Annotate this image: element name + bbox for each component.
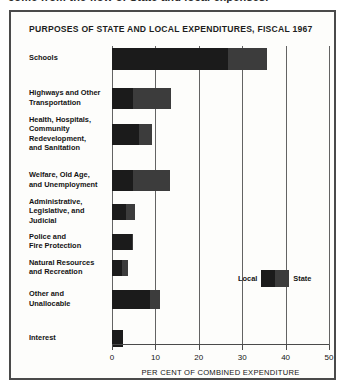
bar-segment-local <box>112 204 126 220</box>
tick-label-20: 20 <box>194 353 203 362</box>
bar-segment-state <box>228 48 267 70</box>
tick-label-40: 40 <box>281 353 290 362</box>
bar-segment-local <box>112 48 228 70</box>
bar-row <box>112 48 329 70</box>
category-label-highways-and-other-transportation: Highways and OtherTransportation <box>29 88 115 106</box>
bar-segment-state <box>133 88 170 109</box>
bar-segment-state <box>126 204 135 220</box>
bar-segment-state <box>132 234 133 250</box>
category-label-line: Community <box>29 124 115 133</box>
axis-baseline <box>112 344 329 345</box>
x-axis-title: PER CENT OF COMBINED EXPENDITURE <box>112 368 329 377</box>
category-label-police-and-fire-protection: Police andFire Protection <box>29 232 115 250</box>
category-label-line: Legislative, and <box>29 206 115 215</box>
category-label-other-and-unallocable: Other andUnallocable <box>29 289 115 307</box>
tick-mark-10 <box>155 345 156 350</box>
category-label-health-hospitals-community-redevelopment-and-sanitation: Health, Hospitals,CommunityRedevelopment… <box>29 115 115 152</box>
gridline-50 <box>329 46 330 345</box>
tick-label-0: 0 <box>110 353 114 362</box>
tick-mark-50 <box>329 345 330 350</box>
bar-segment-state <box>150 290 160 309</box>
category-label-line: Welfare, Old Age, <box>29 170 115 179</box>
category-label-natural-resources-and-recreation: Natural Resourcesand Recreation <box>29 258 115 276</box>
tick-mark-0 <box>112 345 113 350</box>
cut-off-caption-strip: come from the flow of State and local ex… <box>0 0 347 8</box>
legend-label-state: State <box>293 274 311 283</box>
category-label-line: and Recreation <box>29 267 115 276</box>
tick-mark-40 <box>286 345 287 350</box>
tick-mark-20 <box>199 345 200 350</box>
category-label-line: Other and <box>29 289 115 298</box>
category-label-line: Police and <box>29 232 115 241</box>
bar-row <box>112 170 329 191</box>
bar-segment-state <box>122 260 128 276</box>
category-label-line: Transportation <box>29 98 115 107</box>
category-label-line: Health, Hospitals, <box>29 115 115 124</box>
chart-figure-frame: PURPOSES OF STATE AND LOCAL EXPENDITURES… <box>9 10 336 380</box>
category-label-line: Fire Protection <box>29 241 115 250</box>
bar-segment-local <box>112 234 132 250</box>
category-label-line: Natural Resources <box>29 258 115 267</box>
category-label-administrative-legislative-and-judicial: Administrative,Legislative, andJudicial <box>29 197 115 225</box>
category-label-line: Interest <box>29 333 115 342</box>
bar-segment-state <box>133 170 169 191</box>
category-label-line: Redevelopment, <box>29 134 115 143</box>
category-label-line: Schools <box>29 53 115 62</box>
category-label-line: Highways and Other <box>29 88 115 97</box>
bar-row <box>112 124 329 145</box>
chart-title: PURPOSES OF STATE AND LOCAL EXPENDITURES… <box>29 24 313 34</box>
category-label-line: Administrative, <box>29 197 115 206</box>
tick-mark-30 <box>242 345 243 350</box>
tick-label-10: 10 <box>151 353 160 362</box>
plot-area: 01020304050 PER CENT OF COMBINED EXPENDI… <box>112 46 329 345</box>
category-label-interest: Interest <box>29 333 115 342</box>
bar-row <box>112 88 329 109</box>
bar-row <box>112 204 329 220</box>
category-label-line: and Unemployment <box>29 180 115 189</box>
bar-row <box>112 290 329 309</box>
bar-row <box>112 234 329 250</box>
category-label-welfare-old-age-and-unemployment: Welfare, Old Age,and Unemployment <box>29 170 115 188</box>
category-label-line: and Sanitation <box>29 143 115 152</box>
tick-label-50: 50 <box>325 353 334 362</box>
bar-segment-local <box>112 170 133 191</box>
legend-swatch-state <box>275 270 289 287</box>
chart-legend: Local State <box>238 270 311 287</box>
category-label-line: Unallocable <box>29 299 115 308</box>
bar-segment-local <box>112 88 133 109</box>
bar-segment-state <box>139 124 152 145</box>
cut-off-caption-text: come from the flow of State and local ex… <box>8 0 269 3</box>
legend-swatch-local <box>261 270 275 287</box>
bar-segment-local <box>112 290 150 309</box>
legend-label-local: Local <box>238 274 257 283</box>
category-label-line: Judicial <box>29 216 115 225</box>
bar-segment-local <box>112 260 122 276</box>
bar-segment-local <box>112 124 139 145</box>
tick-label-30: 30 <box>238 353 247 362</box>
category-label-schools: Schools <box>29 53 115 62</box>
